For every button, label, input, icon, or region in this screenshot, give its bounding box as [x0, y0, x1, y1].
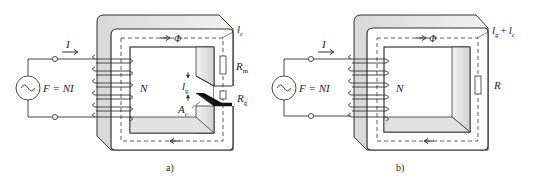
current-arrow-icon — [62, 50, 78, 55]
source-label: F = NI — [298, 82, 331, 94]
resistor-r-icon — [475, 76, 481, 94]
resistor-rg-icon — [220, 91, 226, 99]
flux-label: Φ — [174, 33, 182, 44]
core-resistance-label: Rm — [235, 60, 249, 75]
caption-b: b) — [396, 162, 404, 174]
gap-resistance-label: Rg — [236, 92, 248, 107]
turns-label: N — [139, 82, 148, 94]
path-length-label: lg+lc — [492, 24, 515, 39]
panel-a: I F = NI N Φ lc Rm lg Rg Ac a) — [16, 15, 249, 174]
panel-b: I F = NI N Φ lg+lc R b) — [272, 15, 515, 174]
core-b — [354, 15, 488, 150]
current-label: I — [65, 38, 71, 50]
resistor-rm-icon — [220, 56, 226, 74]
flux-label: Φ — [429, 33, 437, 44]
source-label: F = NI — [42, 82, 75, 94]
turns-label: N — [395, 82, 404, 94]
caption-a: a) — [166, 162, 174, 174]
current-arrow-icon — [318, 50, 334, 55]
core-length-label: lc — [237, 23, 243, 38]
current-label: I — [321, 38, 327, 50]
resistance-label: R — [493, 79, 501, 91]
core-a — [97, 15, 234, 150]
magnetic-circuit-figure: I F = NI N Φ lc Rm lg Rg Ac a) — [0, 0, 536, 181]
